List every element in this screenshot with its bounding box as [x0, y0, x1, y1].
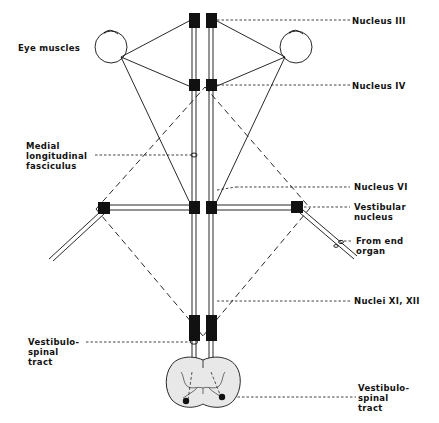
- vestibular-projection-diamond: [96, 87, 310, 336]
- nucleus-iii-left: [189, 13, 200, 28]
- label-vs-right-line3: tract: [358, 403, 409, 413]
- nuclei-xi-xii-left: [189, 315, 200, 341]
- label-vestibular-nucleus: Vestibular nucleus: [354, 202, 406, 222]
- label-from-end-organ: From end organ: [356, 236, 403, 256]
- label-vs-left-line1: Vestibulo-: [28, 337, 79, 347]
- spinal-cord-section: [166, 357, 240, 407]
- vestibular-horizontal-tract-right: [217, 205, 291, 210]
- label-vestibulospinal-tract-right: Vestibulo- spinal tract: [358, 383, 409, 413]
- label-vestibular-nucleus-line1: Vestibular: [354, 202, 406, 212]
- label-mlf-line3: fasciculus: [26, 161, 87, 171]
- end-organ-marker-2: [334, 245, 338, 248]
- eye-left: [95, 30, 127, 63]
- label-mlf-line2: longitudinal: [26, 151, 87, 161]
- leader-lines: [86, 20, 356, 397]
- label-eye-muscles: Eye muscles: [18, 43, 80, 53]
- nuclei-xi-xii-right: [206, 315, 217, 341]
- vestibulospinal-tract-right-dot: [219, 394, 225, 400]
- vestibulospinal-tract-left-dot: [183, 398, 189, 404]
- vestibular-nucleus-left: [98, 202, 110, 214]
- label-mlf: Medial longitudinal fasciculus: [26, 141, 87, 171]
- nucleus-iv-left: [189, 79, 200, 91]
- label-vestibulospinal-tract-left: Vestibulo- spinal tract: [28, 337, 79, 367]
- label-nucleus-iii: Nucleus III: [352, 16, 406, 26]
- label-vestibular-nucleus-line2: nucleus: [354, 212, 406, 222]
- eye-right: [280, 30, 312, 63]
- label-vs-right-line2: spinal: [358, 393, 409, 403]
- label-vs-left-line3: tract: [28, 357, 79, 367]
- vestibular-nucleus-right: [291, 201, 303, 213]
- label-vs-left-line2: spinal: [28, 347, 79, 357]
- nucleus-vi-right: [206, 201, 217, 214]
- label-nucleus-vi: Nucleus VI: [354, 182, 408, 192]
- label-from-end-organ-line1: From end: [356, 236, 403, 246]
- label-nuclei-xi-xii: Nuclei XI, XII: [354, 296, 420, 306]
- nucleus-iv-right: [206, 79, 217, 91]
- label-from-end-organ-line2: organ: [356, 246, 403, 256]
- label-mlf-line1: Medial: [26, 141, 87, 151]
- afferent-nerve-right: [300, 210, 357, 259]
- nucleus-vi-left: [189, 201, 200, 214]
- label-nucleus-iv: Nucleus IV: [352, 81, 406, 91]
- nucleus-iii-right: [206, 13, 217, 28]
- afferent-nerve-left: [49, 212, 104, 261]
- eye-muscle-connections: [121, 21, 285, 201]
- vestibular-horizontal-tract-left: [110, 205, 189, 210]
- label-vs-right-line1: Vestibulo-: [358, 383, 409, 393]
